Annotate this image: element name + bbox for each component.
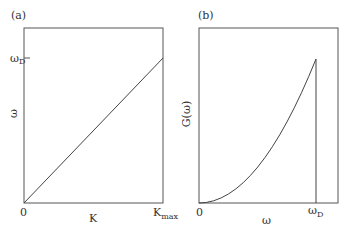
panel-a: (a) ωD ω 0 K Kmax (7, 9, 179, 225)
dos-curve (199, 59, 316, 203)
x-axis-label: ω (262, 214, 271, 227)
y-axis-label: ω (7, 109, 20, 118)
panel-a-frame (24, 28, 163, 203)
y-tick-omega-d: ωD (10, 52, 25, 66)
figure: (a) ωD ω 0 K Kmax (b) G(ω) 0 ω ωD (0, 0, 350, 236)
panel-b-label: (b) (198, 9, 214, 22)
dispersion-line (24, 58, 163, 203)
x-axis-label: K (89, 212, 98, 225)
panel-a-label: (a) (11, 9, 26, 22)
panel-b-frame (199, 28, 338, 203)
x-tick-omega-d: ωD (308, 204, 323, 219)
x-tick-kmax: Kmax (153, 206, 179, 221)
x-tick-zero: 0 (20, 206, 27, 219)
panel-b: (b) G(ω) 0 ω ωD (180, 9, 338, 227)
y-axis-label: G(ω) (180, 101, 193, 127)
x-tick-zero: 0 (196, 206, 203, 219)
